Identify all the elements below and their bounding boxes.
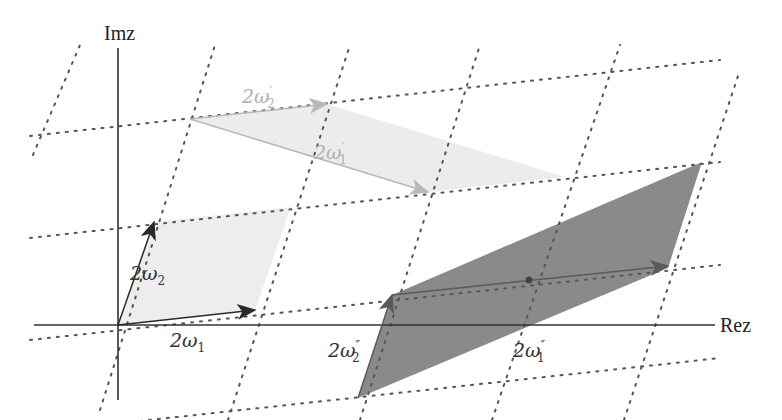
real-axis-label: Rez: [720, 314, 751, 336]
label-2omega1-double-prime: 2ω″1: [512, 339, 546, 365]
prime-fundamental-parallelogram: [190, 104, 565, 192]
label-2omega2-double-prime: 2ω″2: [327, 339, 361, 365]
label-2omega2-prime: 2ω′2: [241, 85, 275, 111]
label-2omega1-prime: 2ω′1: [313, 141, 347, 167]
lattice-point-marker: [526, 277, 533, 284]
period-lattice-diagram: Imz Rez 2ω1 2ω2 2ω′2 2ω′1 2ω″2 2ω″1: [0, 0, 782, 420]
label-2omega1: 2ω1: [169, 329, 205, 355]
imaginary-axis-label: Imz: [104, 22, 135, 44]
